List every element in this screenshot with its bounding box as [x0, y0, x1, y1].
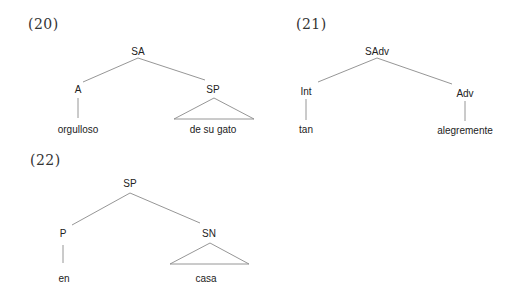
tree-22: SP P en SN casa — [58, 178, 249, 284]
tree-20: SA A orgulloso SP de su gato — [58, 46, 254, 135]
right-node: Adv — [456, 88, 473, 99]
root-node: SA — [131, 46, 145, 57]
right-leaf: alegremente — [437, 125, 493, 136]
left-leaf: en — [58, 273, 69, 284]
left-leaf: tan — [299, 124, 313, 135]
right-node: SP — [206, 84, 220, 95]
syntax-trees: SA A orgulloso SP de su gato SAdv Int ta… — [0, 0, 520, 297]
triangle-icon — [174, 98, 254, 119]
left-node: A — [75, 84, 82, 95]
right-leaf: casa — [195, 273, 217, 284]
left-node: Int — [300, 86, 311, 97]
branch-right — [377, 58, 452, 84]
root-node: SP — [123, 178, 137, 189]
root-node: SAdv — [365, 46, 389, 57]
right-leaf: de su gato — [190, 124, 237, 135]
branch-right — [130, 193, 200, 223]
branch-left — [72, 193, 130, 225]
left-node: P — [60, 228, 67, 239]
branch-right — [138, 58, 205, 80]
branch-left — [83, 58, 138, 82]
triangle-icon — [170, 243, 249, 264]
right-node: SN — [202, 228, 216, 239]
branch-left — [318, 58, 377, 82]
left-leaf: orgulloso — [58, 124, 99, 135]
tree-21: SAdv Int tan Adv alegremente — [299, 46, 493, 136]
